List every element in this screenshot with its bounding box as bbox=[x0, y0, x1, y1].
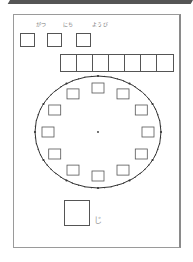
minute-tick bbox=[97, 75, 99, 77]
minute-tick bbox=[72, 183, 73, 184]
minute-tick bbox=[65, 82, 67, 84]
minute-tick bbox=[42, 103, 44, 105]
hour-answer-box[interactable] bbox=[64, 200, 90, 226]
minute-tick bbox=[40, 154, 41, 155]
hour-number-box[interactable] bbox=[92, 171, 104, 181]
minute-tick bbox=[134, 86, 135, 87]
minute-tick bbox=[151, 103, 153, 105]
minute-tick bbox=[84, 77, 85, 78]
minute-tick bbox=[159, 143, 160, 144]
hour-number-box[interactable] bbox=[42, 127, 54, 137]
minute-tick bbox=[46, 98, 47, 99]
minute-tick bbox=[104, 187, 105, 188]
minute-tick bbox=[155, 109, 156, 110]
hour-number-box[interactable] bbox=[135, 149, 147, 159]
minute-tick bbox=[40, 109, 41, 110]
minute-tick bbox=[51, 169, 52, 170]
hour-number-box[interactable] bbox=[135, 105, 147, 115]
minute-tick bbox=[78, 78, 79, 79]
minute-tick bbox=[140, 90, 141, 91]
minute-tick bbox=[144, 94, 145, 95]
hour-number-box[interactable] bbox=[49, 149, 61, 159]
minute-tick bbox=[84, 186, 85, 187]
minute-tick bbox=[128, 82, 130, 84]
minute-tick bbox=[65, 179, 67, 181]
minute-tick bbox=[117, 78, 118, 79]
minute-tick bbox=[104, 76, 105, 77]
hour-number-box[interactable] bbox=[67, 165, 79, 175]
minute-tick bbox=[97, 187, 99, 189]
minute-tick bbox=[55, 173, 56, 174]
hour-number-box[interactable] bbox=[49, 105, 61, 115]
minute-tick bbox=[72, 80, 73, 81]
minute-tick bbox=[128, 179, 130, 181]
minute-tick bbox=[160, 126, 161, 127]
minute-tick bbox=[140, 173, 141, 174]
minute-tick bbox=[60, 177, 61, 178]
hour-number-box[interactable] bbox=[117, 165, 129, 175]
hour-suffix-label: じ bbox=[94, 214, 102, 225]
minute-tick bbox=[160, 131, 162, 133]
minute-tick bbox=[160, 137, 161, 138]
minute-tick bbox=[46, 164, 47, 165]
minute-tick bbox=[155, 154, 156, 155]
minute-tick bbox=[157, 114, 158, 115]
minute-tick bbox=[55, 90, 56, 91]
minute-tick bbox=[60, 86, 61, 87]
hour-number-box[interactable] bbox=[117, 89, 129, 99]
minute-tick bbox=[35, 126, 36, 127]
minute-tick bbox=[117, 185, 118, 186]
minute-tick bbox=[51, 94, 52, 95]
hour-number-box[interactable] bbox=[92, 83, 104, 93]
minute-tick bbox=[157, 149, 158, 150]
minute-tick bbox=[36, 143, 37, 144]
minute-tick bbox=[148, 164, 149, 165]
hour-number-box[interactable] bbox=[67, 89, 79, 99]
minute-tick bbox=[37, 149, 38, 150]
minute-tick bbox=[91, 187, 92, 188]
minute-tick bbox=[134, 177, 135, 178]
minute-tick bbox=[151, 159, 153, 161]
minute-tick bbox=[123, 80, 124, 81]
minute-tick bbox=[42, 159, 44, 161]
minute-tick bbox=[35, 137, 36, 138]
minute-tick bbox=[110, 77, 111, 78]
hour-number-box[interactable] bbox=[142, 127, 154, 137]
clock-center-dot bbox=[97, 131, 99, 133]
minute-tick bbox=[110, 186, 111, 187]
minute-tick bbox=[37, 114, 38, 115]
minute-tick bbox=[36, 120, 37, 121]
minute-tick bbox=[78, 185, 79, 186]
minute-tick bbox=[34, 131, 36, 133]
minute-tick bbox=[144, 169, 145, 170]
minute-tick bbox=[123, 183, 124, 184]
minute-tick bbox=[159, 120, 160, 121]
minute-tick bbox=[91, 76, 92, 77]
minute-tick bbox=[148, 98, 149, 99]
